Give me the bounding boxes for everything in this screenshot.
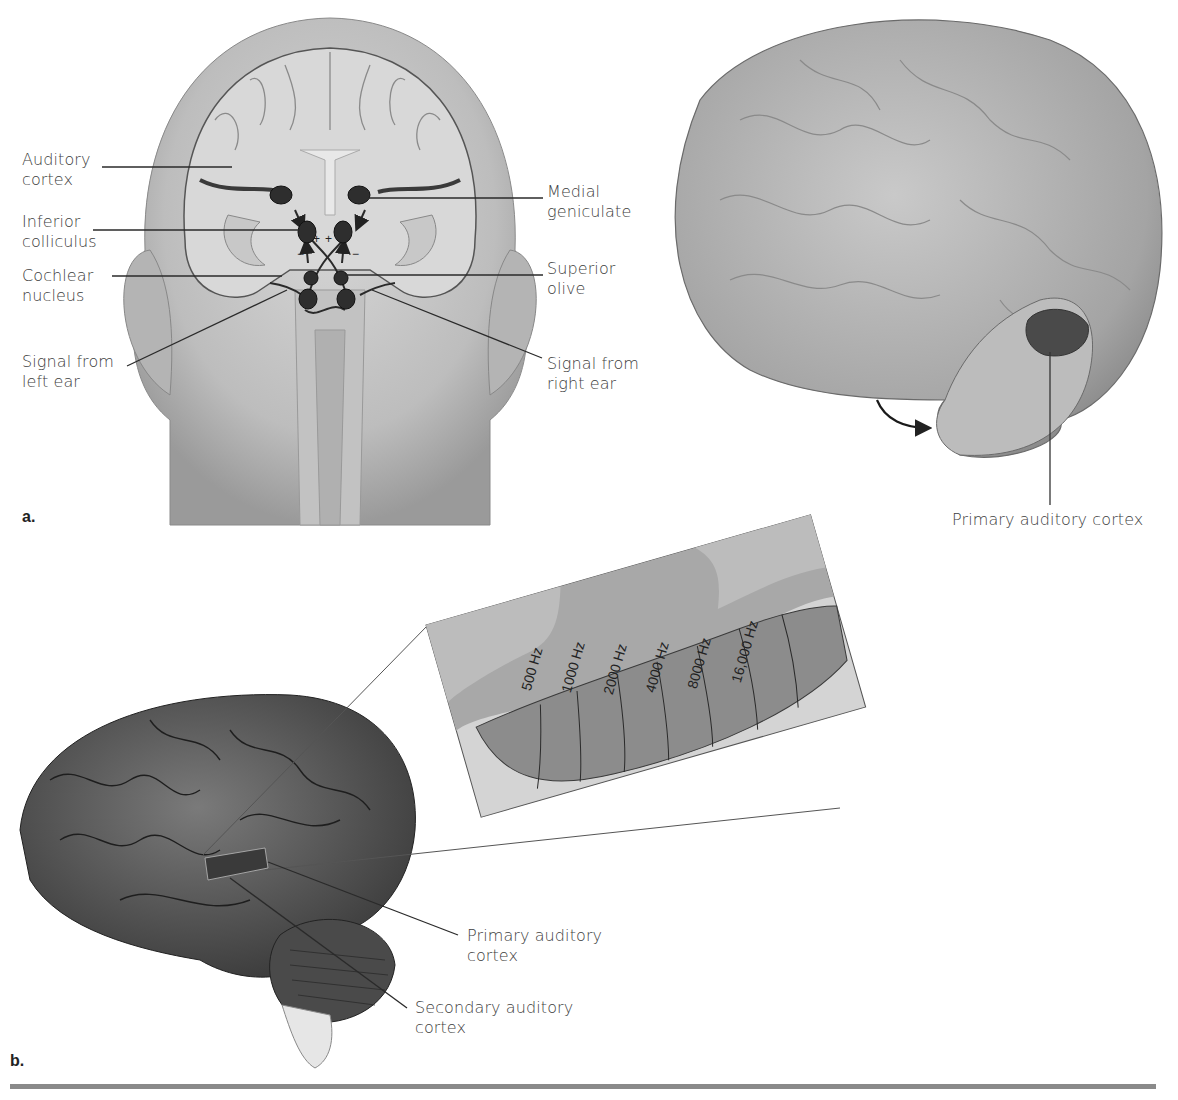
panel-letter-a: a. (22, 508, 35, 526)
label-auditory-cortex: Auditory cortex (22, 150, 91, 190)
frequency-16000: 16,000 Hz (728, 619, 761, 685)
label-superior-olive: Superior olive (547, 259, 616, 299)
label-cochlear-nucleus: Cochlear nucleus (22, 266, 93, 306)
frequency-500: 500 Hz (518, 645, 546, 692)
bottom-rule (10, 1084, 1156, 1089)
label-primary-auditory-cortex-b: Primary auditory cortex (467, 926, 602, 966)
label-signal-left-ear: Signal from left ear (22, 352, 114, 392)
label-primary-auditory-cortex-a: Primary auditory cortex (952, 510, 1143, 530)
label-signal-right-ear: Signal from right ear (547, 354, 639, 394)
frequency-4000: 4000 Hz (642, 640, 672, 695)
frequency-2000: 2000 Hz (600, 642, 630, 697)
frequency-1000: 1000 Hz (558, 640, 588, 695)
label-medial-geniculate: Medial geniculate (547, 182, 631, 222)
panel-letter-b: b. (10, 1052, 24, 1070)
frequency-8000: 8000 Hz (684, 636, 714, 691)
label-secondary-auditory-cortex: Secondary auditory cortex (415, 998, 573, 1038)
label-inferior-colliculus: Inferior colliculus (22, 212, 97, 252)
